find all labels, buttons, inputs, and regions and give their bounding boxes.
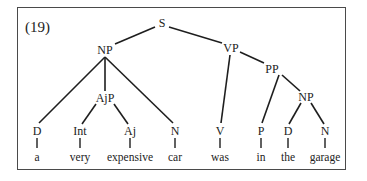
tree-node-pp: PP — [265, 63, 278, 75]
tree-node-vp: VP — [223, 42, 238, 54]
tree-node-d1: D — [33, 125, 42, 137]
tree-word: garage — [310, 151, 341, 163]
tree-word: the — [281, 151, 295, 163]
tree-branch — [221, 55, 230, 123]
tree-word: car — [168, 151, 182, 163]
tree-branch — [282, 75, 300, 91]
tree-node-d2: D — [284, 125, 293, 137]
tree-word: expensive — [107, 151, 153, 163]
tree-node-v: V — [216, 125, 225, 137]
tree-word: very — [70, 151, 90, 163]
tree-branch — [115, 27, 155, 44]
tree-node-int: Int — [73, 125, 86, 137]
tree-branch — [262, 75, 279, 123]
tree-node-p: P — [258, 125, 265, 137]
tree-node-n1: N — [171, 125, 180, 137]
tree-word: in — [257, 151, 266, 163]
tree-branch — [114, 104, 128, 124]
tree-branch — [39, 57, 105, 123]
tree-word: a — [34, 151, 39, 163]
tree-branch — [311, 103, 324, 124]
tree-branch — [169, 27, 222, 43]
tree-branch — [289, 103, 301, 124]
tree-node-ajp: AjP — [96, 92, 115, 104]
tree-node-np2: NP — [298, 91, 313, 103]
tree-branch — [240, 52, 264, 63]
tree-branch — [82, 104, 96, 124]
tree-node-aj: Aj — [124, 125, 136, 137]
tree-node-s: S — [159, 17, 166, 29]
tree-word: was — [211, 151, 229, 163]
tree-node-np1: NP — [97, 44, 112, 56]
tree-branch — [105, 57, 173, 123]
tree-node-n2: N — [321, 125, 330, 137]
